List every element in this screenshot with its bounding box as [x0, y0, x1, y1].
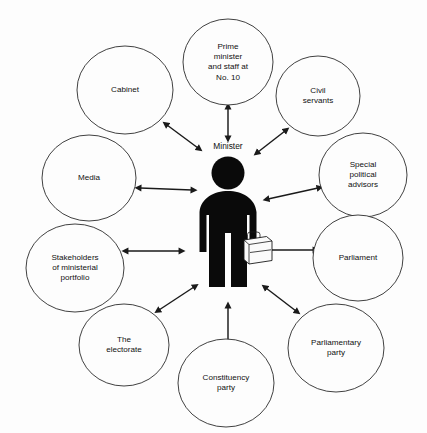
diagram-svg: Primeministerand staff atNo. 10CabinetCi… — [0, 0, 427, 433]
connector-cabinet — [167, 125, 198, 148]
node-label-prime-minister: and staff at — [208, 62, 249, 71]
node-label-civil-servants: Civil — [310, 86, 325, 95]
connector-special-political-advisors — [268, 188, 318, 199]
node-civil-servants[interactable]: Civilservants — [276, 56, 360, 136]
node-label-prime-minister: minister — [214, 52, 243, 61]
node-label-special-political-advisors: political — [350, 170, 377, 179]
node-label-special-political-advisors: advisors — [348, 180, 378, 189]
node-special-political-advisors[interactable]: Specialpoliticaladvisors — [319, 133, 407, 217]
node-label-stakeholders: of ministerial — [52, 263, 98, 272]
diagram-canvas: Primeministerand staff atNo. 10CabinetCi… — [0, 0, 427, 433]
node-the-electorate[interactable]: Theelectorate — [79, 304, 169, 386]
node-label-special-political-advisors: Special — [350, 160, 377, 169]
node-label-stakeholders: Stakeholders — [51, 253, 98, 262]
connector-the-electorate — [159, 287, 194, 310]
node-cabinet[interactable]: Cabinet — [77, 46, 173, 134]
node-prime-minister[interactable]: Primeministerand staff atNo. 10 — [183, 19, 273, 105]
connector-civil-servants — [258, 131, 285, 152]
node-label-the-electorate: electorate — [106, 345, 142, 354]
node-label-constituency-party: party — [217, 383, 236, 392]
node-label-stakeholders: portfolio — [61, 273, 90, 282]
node-stakeholders[interactable]: Stakeholdersof ministerialportfolio — [26, 224, 124, 312]
node-media[interactable]: Media — [42, 135, 136, 221]
node-label-parliament: Parliament — [339, 253, 378, 262]
node-constituency-party[interactable]: Constituencyparty — [178, 339, 274, 427]
node-label-parliamentary-party: party — [327, 348, 346, 357]
node-label-prime-minister: Prime — [217, 42, 239, 51]
connector-parliamentary-party — [266, 288, 296, 311]
node-parliament[interactable]: Parliament — [313, 215, 403, 301]
node-parliamentary-party[interactable]: Parliamentaryparty — [288, 304, 384, 392]
briefcase-icon — [244, 232, 272, 264]
node-label-constituency-party: Constituency — [203, 373, 251, 382]
node-label-prime-minister: No. 10 — [216, 73, 240, 82]
connector-media — [140, 188, 192, 190]
node-label-cabinet: Cabinet — [111, 85, 140, 94]
center-node-label: Minister — [213, 141, 243, 151]
node-label-the-electorate: The — [117, 335, 131, 344]
node-label-media: Media — [78, 173, 101, 182]
minister-figure-icon — [200, 157, 273, 288]
node-label-civil-servants: servants — [303, 96, 334, 105]
node-label-parliamentary-party: Parliamentary — [311, 338, 362, 347]
